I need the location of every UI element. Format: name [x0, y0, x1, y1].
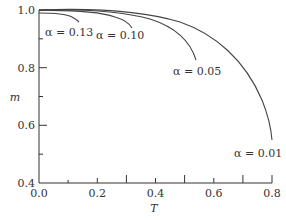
y-axis-label: m [10, 91, 20, 104]
annotation-alpha-0.05: α = 0.05 [173, 65, 221, 78]
y-tick-label: 1.0 [18, 4, 36, 17]
y-tick-label: 0.4 [18, 177, 36, 190]
y-tick-label: 0.8 [18, 62, 36, 75]
annotation-alpha-0.01: α = 0.01 [234, 147, 282, 160]
annotation-alpha-0.10: α = 0.10 [96, 29, 144, 42]
x-ticks [68, 175, 272, 183]
annotation-alpha-0.13: α = 0.13 [45, 26, 93, 39]
x-axis-label: T [150, 202, 159, 215]
x-tick-label: 0.8 [263, 187, 281, 200]
x-tick-label: 0.2 [89, 187, 107, 200]
curve-alpha-0.13 [39, 13, 79, 22]
chart: 0.0 0.2 0.4 0.6 0.8 0.4 0.6 0.8 1.0 T m … [0, 0, 286, 221]
y-tick-label: 0.6 [18, 119, 36, 132]
x-tick-label: 0.6 [205, 187, 223, 200]
x-tick-label: 0.4 [147, 187, 165, 200]
